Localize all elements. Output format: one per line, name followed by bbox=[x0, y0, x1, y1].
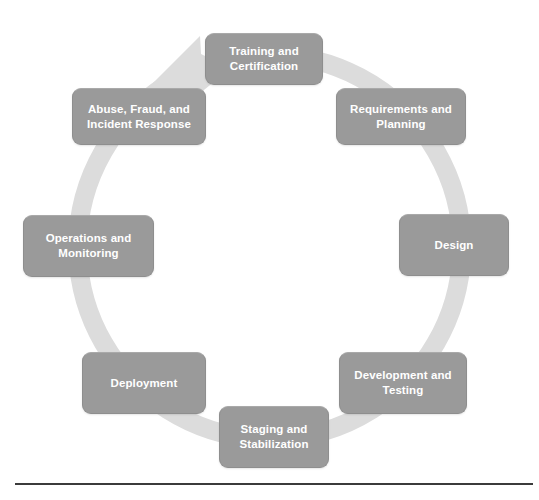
cycle-node-label: Deployment bbox=[111, 376, 178, 391]
cycle-node-label: Training and Certification bbox=[229, 44, 299, 73]
cycle-node-design[interactable]: Design bbox=[399, 214, 509, 276]
cycle-node-deployment[interactable]: Deployment bbox=[82, 352, 206, 414]
horizontal-divider bbox=[15, 483, 533, 485]
cycle-node-development-and-testing[interactable]: Development and Testing bbox=[339, 352, 467, 414]
cycle-node-requirements-and-planning[interactable]: Requirements and Planning bbox=[336, 88, 466, 145]
cycle-node-label: Design bbox=[435, 238, 474, 253]
cycle-node-label: Operations and Monitoring bbox=[46, 231, 132, 260]
cycle-node-operations-and-monitoring[interactable]: Operations and Monitoring bbox=[23, 215, 154, 277]
cycle-node-abuse-fraud-and-incident-response[interactable]: Abuse, Fraud, and Incident Response bbox=[72, 88, 206, 145]
cycle-node-label: Requirements and Planning bbox=[350, 102, 452, 131]
cycle-node-label: Abuse, Fraud, and Incident Response bbox=[87, 102, 191, 131]
cycle-node-label: Staging and Stabilization bbox=[239, 422, 308, 451]
cycle-node-staging-and-stabilization[interactable]: Staging and Stabilization bbox=[219, 406, 329, 468]
cycle-node-training-and-certification[interactable]: Training and Certification bbox=[205, 33, 323, 85]
cycle-diagram: Training and Certification Requirements … bbox=[0, 0, 539, 500]
cycle-node-label: Development and Testing bbox=[354, 368, 451, 397]
